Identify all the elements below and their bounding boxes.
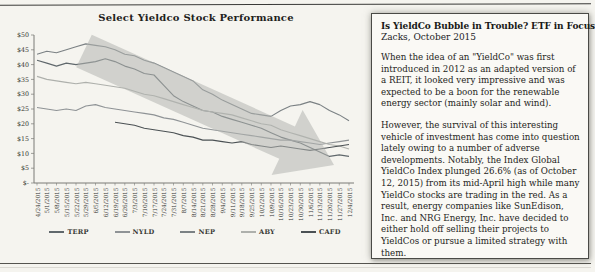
svg-text:7/24/2015: 7/24/2015 (161, 187, 167, 217)
svg-text:10/2/2015: 10/2/2015 (259, 187, 265, 217)
legend-line-icon (49, 231, 64, 233)
svg-text:10/16/2015: 10/16/2015 (278, 187, 284, 221)
svg-text:6/12/2015: 6/12/2015 (103, 187, 109, 217)
svg-text:5/1/2015: 5/1/2015 (44, 187, 50, 213)
svg-text:11/20/2015: 11/20/2015 (327, 187, 333, 221)
bottom-rule-faint (0, 267, 591, 268)
svg-text:5/29/2015: 5/29/2015 (83, 187, 89, 217)
svg-text:5/22/2015: 5/22/2015 (74, 187, 80, 217)
article-paragraph-2: However, the survival of this interestin… (381, 120, 580, 259)
svg-text:9/4/2015: 9/4/2015 (220, 187, 226, 213)
legend-label: NYLD (133, 228, 155, 236)
svg-text:8/21/2015: 8/21/2015 (200, 187, 206, 217)
chart-title: Select Yieldco Stock Performance (4, 12, 366, 23)
yieldco-chart: Select Yieldco Stock Performance $-$5$10… (4, 12, 366, 236)
article-paragraph-1: When the idea of an "YieldCo" was first … (381, 52, 580, 110)
legend-item-nep: NEP (180, 228, 215, 236)
legend-label: TERP (67, 228, 88, 236)
svg-text:7/31/2015: 7/31/2015 (171, 187, 177, 217)
svg-text:7/17/2015: 7/17/2015 (152, 187, 158, 217)
svg-text:$-: $- (23, 179, 29, 186)
svg-text:10/23/2015: 10/23/2015 (288, 187, 294, 221)
svg-text:9/25/2015: 9/25/2015 (249, 187, 255, 217)
svg-text:8/14/2015: 8/14/2015 (191, 187, 197, 217)
article-title: Is YieldCo Bubble in Trouble? ETF in Foc… (381, 21, 580, 31)
legend-line-icon (301, 231, 316, 233)
svg-text:10/30/2015: 10/30/2015 (298, 187, 304, 221)
article-box: Is YieldCo Bubble in Trouble? ETF in Foc… (371, 13, 589, 259)
svg-text:$10: $10 (17, 150, 29, 157)
svg-text:$15: $15 (17, 135, 29, 142)
svg-text:8/28/2015: 8/28/2015 (210, 187, 216, 217)
top-rule (0, 3, 591, 6)
svg-text:7/3/2015: 7/3/2015 (132, 187, 138, 213)
svg-text:9/11/2015: 9/11/2015 (230, 187, 236, 217)
legend-item-nyld: NYLD (115, 228, 155, 236)
legend-item-aby: ABY (241, 228, 275, 236)
legend-line-icon (180, 231, 195, 233)
chart-plot: $-$5$10$15$20$25$30$35$40$45$504/24/2015… (4, 25, 366, 227)
svg-text:$35: $35 (17, 76, 29, 83)
bottom-rule (0, 263, 591, 264)
svg-text:8/7/2015: 8/7/2015 (181, 187, 187, 213)
chart-legend: TERPNYLDNEPABYCAFD (4, 228, 366, 236)
legend-label: CAFD (319, 228, 341, 236)
svg-text:6/26/2015: 6/26/2015 (122, 187, 128, 217)
legend-item-terp: TERP (49, 228, 88, 236)
svg-text:6/19/2015: 6/19/2015 (113, 187, 119, 217)
svg-text:6/5/2015: 6/5/2015 (93, 187, 99, 213)
svg-text:$50: $50 (17, 31, 29, 38)
svg-text:5/8/2015: 5/8/2015 (54, 187, 60, 213)
svg-text:11/27/2015: 11/27/2015 (337, 187, 343, 221)
article-byline: Zacks, October 2015 (381, 32, 580, 42)
legend-label: ABY (259, 228, 275, 236)
svg-text:$40: $40 (17, 61, 29, 68)
svg-text:$20: $20 (17, 120, 29, 127)
svg-text:12/4/2015: 12/4/2015 (347, 187, 353, 217)
svg-text:$25: $25 (17, 105, 29, 112)
svg-text:4/24/2015: 4/24/2015 (35, 187, 41, 217)
svg-text:11/6/2015: 11/6/2015 (308, 187, 314, 217)
svg-text:$45: $45 (17, 46, 29, 53)
svg-text:5/15/2015: 5/15/2015 (64, 187, 70, 217)
svg-text:$5: $5 (21, 164, 29, 171)
legend-item-cafd: CAFD (301, 228, 341, 236)
svg-text:7/10/2015: 7/10/2015 (142, 187, 148, 217)
svg-text:11/13/2015: 11/13/2015 (317, 187, 323, 221)
legend-label: NEP (198, 228, 215, 236)
legend-line-icon (241, 231, 256, 233)
svg-text:9/18/2015: 9/18/2015 (239, 187, 245, 217)
svg-text:10/9/2015: 10/9/2015 (269, 187, 275, 217)
legend-line-icon (115, 231, 130, 233)
svg-text:$30: $30 (17, 90, 29, 97)
